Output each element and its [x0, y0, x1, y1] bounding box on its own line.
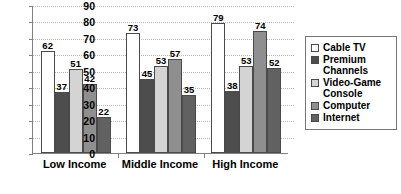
bar-value-label: 53 — [241, 56, 252, 65]
legend-item[interactable]: Video-Game Console — [311, 77, 392, 99]
bar-slot: 51 — [69, 6, 83, 153]
bar-value-label: 37 — [56, 82, 67, 91]
bar-slot: 74 — [253, 6, 267, 153]
legend-item-label: Premium Channels — [323, 54, 392, 76]
legend-swatch-icon — [311, 114, 319, 122]
y-axis-tick-label: 40 — [69, 83, 95, 93]
bar-value-label: 38 — [227, 81, 238, 90]
bar-slot: 62 — [41, 6, 55, 153]
bar[interactable] — [239, 66, 253, 153]
bar[interactable] — [55, 92, 69, 153]
y-axis-tick-label: 80 — [69, 17, 95, 27]
bar-slot: 35 — [182, 6, 196, 153]
bar-slot: 37 — [55, 6, 69, 153]
legend-item-label: Internet — [323, 112, 360, 123]
bar-slot: 52 — [267, 6, 281, 153]
bar-value-label: 22 — [98, 107, 109, 116]
bar[interactable] — [211, 23, 225, 153]
bar-value-label: 62 — [42, 41, 53, 50]
bar[interactable] — [253, 31, 267, 153]
y-axis-tick-label: 50 — [69, 67, 95, 77]
bar-slot: 79 — [211, 6, 225, 153]
bar-slot: 42 — [83, 6, 97, 153]
legend-item[interactable]: Premium Channels — [311, 54, 392, 76]
bar-group: 7345535735 — [118, 6, 203, 153]
legend-item-label: Computer — [323, 100, 370, 111]
legend-item-label: Video-Game Console — [323, 77, 392, 99]
legend-swatch-icon — [311, 44, 319, 52]
legend-swatch-icon — [311, 79, 319, 87]
bar[interactable] — [140, 79, 154, 153]
y-axis-tick-label: 30 — [69, 100, 95, 110]
bar-value-label: 57 — [170, 49, 181, 58]
bar[interactable] — [182, 95, 196, 153]
x-axis-category-label: Middle Income — [117, 158, 202, 170]
bar-slot: 38 — [225, 6, 239, 153]
bar[interactable] — [225, 91, 239, 153]
bar[interactable] — [97, 117, 111, 153]
bar[interactable] — [126, 33, 140, 153]
y-axis-tick-label: 20 — [69, 116, 95, 126]
legend-item-label: Cable TV — [323, 42, 366, 53]
y-axis-tick-label: 70 — [69, 34, 95, 44]
bars-layer: 623751422273455357357938537452 — [33, 6, 288, 153]
bar[interactable] — [154, 66, 168, 153]
bar-value-label: 73 — [128, 23, 139, 32]
legend-item[interactable]: Internet — [311, 112, 392, 123]
bar-group: 6237514222 — [33, 6, 118, 153]
bar-value-label: 52 — [269, 58, 280, 67]
bar-slot: 53 — [154, 6, 168, 153]
x-axis-category-label: High Income — [203, 158, 288, 170]
bar-value-label: 45 — [142, 69, 153, 78]
bar[interactable] — [168, 59, 182, 153]
legend: Cable TVPremium ChannelsVideo-Game Conso… — [305, 36, 397, 130]
legend-item[interactable]: Computer — [311, 100, 392, 111]
y-axis-tick — [29, 154, 33, 155]
legend-item[interactable]: Cable TV — [311, 42, 392, 53]
bar[interactable] — [267, 68, 281, 154]
bar-slot: 57 — [168, 6, 182, 153]
bar-group: 7938537452 — [204, 6, 289, 153]
y-axis-tick-label: 10 — [69, 133, 95, 143]
legend-swatch-icon — [311, 56, 319, 64]
bar-value-label: 35 — [184, 85, 195, 94]
bar[interactable] — [41, 51, 55, 153]
legend-swatch-icon — [311, 102, 319, 110]
y-axis-tick-label: 60 — [69, 50, 95, 60]
bar-chart: 623751422273455357357938537452 010203040… — [0, 0, 401, 194]
bar-slot: 45 — [140, 6, 154, 153]
bar-value-label: 74 — [255, 21, 266, 30]
bar-value-label: 79 — [213, 13, 224, 22]
bar-slot: 53 — [239, 6, 253, 153]
y-axis-tick-label: 90 — [69, 1, 95, 11]
bar-slot: 22 — [97, 6, 111, 153]
bar-value-label: 53 — [156, 56, 167, 65]
bar-slot: 73 — [126, 6, 140, 153]
x-axis-category-label: Low Income — [32, 158, 117, 170]
